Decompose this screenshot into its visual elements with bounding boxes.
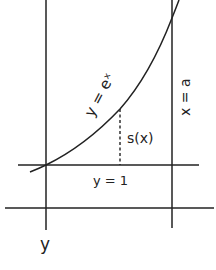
- diagram-canvas: y = eˣ x = a s(x) y = 1 y: [0, 0, 216, 270]
- s-of-x-label: s(x): [127, 130, 154, 146]
- y-axis-label: y: [40, 234, 50, 254]
- x-equals-a-label: x = a: [177, 79, 193, 117]
- curve-label: y = eˣ: [81, 70, 119, 120]
- y-equals-1-label: y = 1: [93, 173, 128, 188]
